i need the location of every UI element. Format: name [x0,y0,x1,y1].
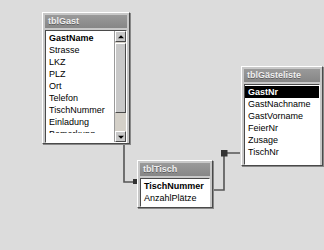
relationship-line-tisch-gaesteliste[interactable] [214,150,240,190]
watermark-text [0,228,324,250]
table-title-tblGast[interactable]: tblGast [45,15,127,28]
field-list-tblTisch: TischNummer AnzahlPlätze [141,179,209,204]
field-list-body-tblGast[interactable]: GastName Strasse LKZ PLZ Ort Telefon Tis… [45,30,127,143]
field-item[interactable]: GastVorname [245,110,319,122]
table-window-tblGast[interactable]: tblGast GastName Strasse LKZ PLZ Ort Tel… [42,12,130,144]
field-item[interactable]: TischNr [245,146,319,158]
field-item[interactable]: Zusage [245,134,319,146]
field-item[interactable]: GastNr [245,86,319,98]
field-list-body-tblGaesteliste[interactable]: GastNr GastNachname GastVorname FeierNr … [244,84,320,165]
triangle-down-icon [118,135,124,138]
triangle-up-icon [118,35,124,38]
field-item[interactable]: TischNummer [141,180,209,192]
field-item[interactable]: GastNachname [245,98,319,110]
table-title-tblTisch[interactable]: tblTisch [140,163,210,176]
field-item[interactable]: FeierNr [245,122,319,134]
field-list-tblGaesteliste: GastNr GastNachname GastVorname FeierNr … [245,85,319,158]
field-item[interactable]: AnzahlPlätze [141,192,209,204]
scroll-down-arrow-icon[interactable] [115,131,126,142]
table-window-tblTisch[interactable]: tblTisch TischNummer AnzahlPlätze [137,160,213,208]
scroll-thumb[interactable] [115,43,126,113]
relationships-canvas[interactable]: tblGast GastName Strasse LKZ PLZ Ort Tel… [0,0,324,250]
scroll-up-arrow-icon[interactable] [115,31,126,42]
vertical-scrollbar[interactable] [114,31,126,142]
table-title-tblGaesteliste[interactable]: tblGästeliste [244,69,320,82]
field-list-body-tblTisch[interactable]: TischNummer AnzahlPlätze [140,178,210,207]
table-window-tblGaesteliste[interactable]: tblGästeliste GastNr GastNachname GastVo… [241,66,323,166]
